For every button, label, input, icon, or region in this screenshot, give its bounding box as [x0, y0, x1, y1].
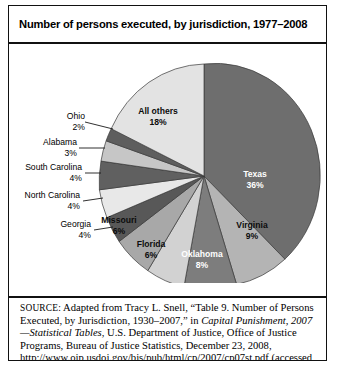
source-note: SOURCE: Adapted from Tracy L. Snell, “Ta…: [20, 302, 316, 361]
pie-label-all-others-value: 18%: [119, 117, 197, 128]
figure-panel: Number of persons executed, by jurisdict…: [8, 5, 327, 361]
page-title: Number of persons executed, by jurisdict…: [19, 18, 319, 31]
pie-label-virginia-name: Virginia: [236, 220, 267, 230]
pie-label-georgia: Georgia 4%: [19, 219, 91, 240]
pie-label-missouri: Missouri 6%: [88, 215, 150, 236]
pie-label-texas: Texas 36%: [225, 169, 285, 190]
pie-label-alabama-value: 3%: [9, 148, 77, 159]
pie-label-ohio: Ohio 2%: [13, 111, 85, 132]
pie-label-oklahoma-name: Oklahoma: [181, 249, 223, 259]
leader-line-ohio: [85, 122, 113, 129]
pie-label-alabama: Alabama 3%: [9, 137, 77, 158]
pie-label-north-carolina-value: 4%: [9, 201, 80, 212]
pie-label-oklahoma-value: 8%: [164, 260, 240, 271]
pie-label-all-others: All others 18%: [119, 106, 197, 127]
pie-label-north-carolina-name: North Carolina: [25, 190, 80, 200]
pie-label-texas-value: 36%: [225, 180, 285, 191]
leader-line-north-carolina: [83, 198, 103, 201]
pie-label-virginia-value: 9%: [221, 231, 283, 242]
pie-label-missouri-name: Missouri: [101, 215, 136, 225]
pie-label-florida: Florida 6%: [123, 239, 179, 260]
pie-label-virginia: Virginia 9%: [221, 220, 283, 241]
pie-label-florida-name: Florida: [137, 239, 166, 249]
pie-label-south-carolina: South Carolina 4%: [9, 162, 82, 183]
pie-label-south-carolina-value: 4%: [9, 173, 82, 184]
pie-label-south-carolina-name: South Carolina: [25, 162, 82, 172]
pie-label-north-carolina: North Carolina 4%: [9, 190, 80, 211]
pie-label-georgia-value: 4%: [19, 230, 91, 241]
source-divider: [9, 296, 326, 298]
pie-label-all-others-name: All others: [138, 106, 178, 116]
pie-label-florida-value: 6%: [123, 250, 179, 261]
pie-label-texas-name: Texas: [243, 169, 267, 179]
pie-chart: Ohio 2% Alabama 3% South Carolina 4% Nor…: [9, 43, 326, 283]
pie-label-ohio-value: 2%: [13, 122, 85, 133]
pie-label-ohio-name: Ohio: [67, 111, 85, 121]
source-prefix: SOURCE:: [20, 303, 61, 313]
pie-label-missouri-value: 6%: [88, 226, 150, 237]
pie-label-alabama-name: Alabama: [43, 137, 77, 147]
pie-label-georgia-name: Georgia: [60, 219, 91, 229]
